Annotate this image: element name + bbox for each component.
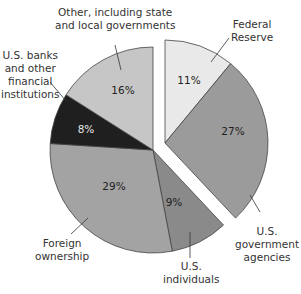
label-other: Other, including state and local governm…	[55, 6, 175, 32]
value-label-foreign: 29%	[102, 180, 125, 192]
leader-agencies	[250, 195, 260, 212]
value-label-agencies: 27%	[221, 125, 244, 137]
value-label-other: 16%	[111, 84, 134, 96]
label-foreign: Foreign ownership	[35, 237, 89, 263]
label-banks: U.S. banks and other financial instituti…	[1, 49, 59, 101]
value-label-fed: 11%	[177, 74, 200, 86]
label-individuals: U.S. individuals	[163, 260, 219, 286]
label-fed: Federal Reserve	[231, 18, 273, 44]
label-agencies: U.S. government agencies	[235, 225, 299, 264]
value-label-individuals: 9%	[166, 196, 183, 208]
value-label-banks: 8%	[78, 123, 95, 135]
